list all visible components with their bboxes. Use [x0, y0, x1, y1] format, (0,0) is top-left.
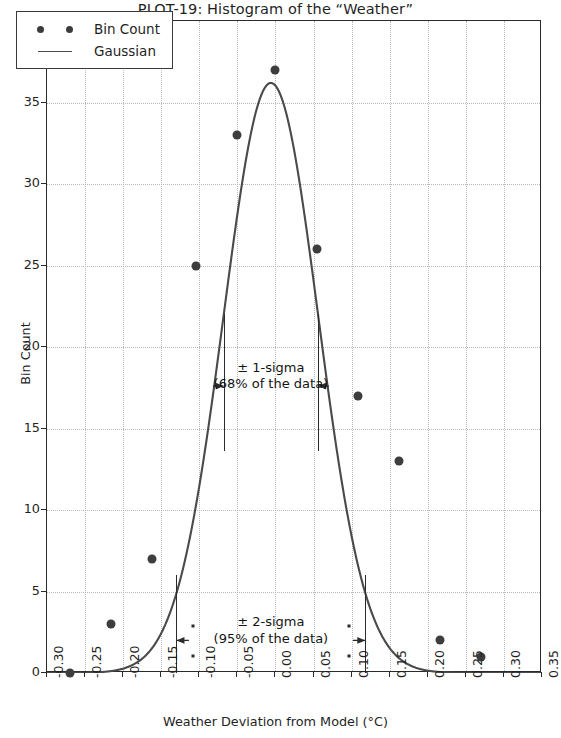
- x-tick: [84, 672, 85, 677]
- x-tick: [351, 672, 352, 677]
- x-tick: [313, 672, 314, 677]
- x-tick: [46, 672, 47, 677]
- y-tick: [41, 102, 46, 103]
- legend-label-gaussian: Gaussian: [84, 43, 156, 59]
- y-tick-label: 0: [32, 664, 40, 679]
- x-tick-label: 0.35: [546, 650, 561, 678]
- legend-label-bin-count: Bin Count: [84, 21, 160, 37]
- x-tick: [389, 672, 390, 677]
- x-tick-label: 0.20: [432, 650, 447, 678]
- y-tick: [41, 591, 46, 592]
- line-icon: [38, 51, 72, 52]
- label-corner-marker: [191, 625, 194, 628]
- x-tick: [465, 672, 466, 677]
- x-tick-label: 0.05: [318, 650, 333, 678]
- x-tick-label: 0.30: [508, 650, 523, 678]
- x-tick: [427, 672, 428, 677]
- x-tick-label: 0.25: [470, 650, 485, 678]
- x-tick: [122, 672, 123, 677]
- sigma-arrows: [47, 21, 542, 673]
- chart-legend: Bin Count Gaussian: [16, 11, 173, 69]
- sigma-label-line2: (95% of the data): [214, 631, 329, 647]
- x-tick-label: -0.30: [51, 646, 66, 678]
- y-tick-label: 30: [24, 175, 40, 190]
- x-tick: [198, 672, 199, 677]
- legend-item-gaussian: Gaussian: [26, 40, 160, 62]
- y-tick: [41, 672, 46, 673]
- dot-icon: [37, 26, 44, 33]
- sigma-annotation-label: ± 2-sigma(95% of the data): [214, 614, 329, 647]
- y-tick: [41, 509, 46, 510]
- legend-item-bin-count: Bin Count: [26, 18, 160, 40]
- x-tick-label: 0.10: [356, 650, 371, 678]
- x-tick-label: -0.10: [203, 646, 218, 678]
- x-tick: [236, 672, 237, 677]
- x-tick: [503, 672, 504, 677]
- y-tick-label: 5: [32, 583, 40, 598]
- x-tick-label: -0.05: [241, 646, 256, 678]
- plot-area: ± 1-sigma(68% of the data)± 2-sigma(95% …: [46, 20, 541, 672]
- y-tick-label: 15: [24, 420, 40, 435]
- sigma-label-line1: ± 2-sigma: [214, 614, 329, 630]
- x-axis-title: Weather Deviation from Model (°C): [0, 714, 551, 729]
- y-tick-label: 25: [24, 257, 40, 272]
- y-tick-label: 10: [24, 501, 40, 516]
- x-tick: [541, 672, 542, 677]
- legend-marker-line: [26, 51, 84, 52]
- label-corner-marker: [347, 655, 350, 658]
- y-tick-label: 35: [24, 94, 40, 109]
- x-tick: [160, 672, 161, 677]
- x-tick-label: -0.20: [127, 646, 142, 678]
- legend-marker-dots: [26, 26, 84, 33]
- x-tick-label: 0.15: [394, 650, 409, 678]
- x-tick: [274, 672, 275, 677]
- y-tick: [41, 346, 46, 347]
- x-tick-label: -0.25: [89, 646, 104, 678]
- label-corner-marker: [191, 655, 194, 658]
- dot-icon: [66, 26, 73, 33]
- y-tick: [41, 428, 46, 429]
- y-axis-title: Bin Count: [18, 322, 33, 385]
- y-tick: [41, 265, 46, 266]
- x-tick-label: -0.15: [165, 646, 180, 678]
- label-corner-marker: [347, 625, 350, 628]
- x-tick-label: 0.00: [279, 650, 294, 678]
- y-tick: [41, 183, 46, 184]
- annotations-layer: ± 1-sigma(68% of the data)± 2-sigma(95% …: [47, 21, 540, 671]
